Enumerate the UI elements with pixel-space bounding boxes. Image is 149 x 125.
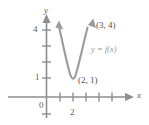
x-axis-label: x <box>137 91 141 100</box>
y-tick-label-1: 1 <box>35 73 40 82</box>
y-axis-arrowhead <box>43 14 51 23</box>
point-3-4-marker <box>90 22 94 26</box>
y-axis-label: y <box>44 6 48 15</box>
point-label-2-1: (2, 1) <box>78 76 98 85</box>
x-axis-arrowhead <box>125 93 134 101</box>
parabola-curve <box>60 28 88 79</box>
function-label: y = f(x) <box>91 45 117 54</box>
parabola-figure: y x 0 4 1 2 (3, 4) (2, 1) y = f(x) <box>0 0 149 125</box>
point-label-3-4: (3, 4) <box>96 21 116 30</box>
curve-left-arrowhead <box>55 21 63 30</box>
graph-canvas <box>0 0 149 125</box>
x-tick-label-2: 2 <box>70 108 75 117</box>
y-tick-label-4: 4 <box>33 25 38 34</box>
origin-label: 0 <box>39 101 44 110</box>
